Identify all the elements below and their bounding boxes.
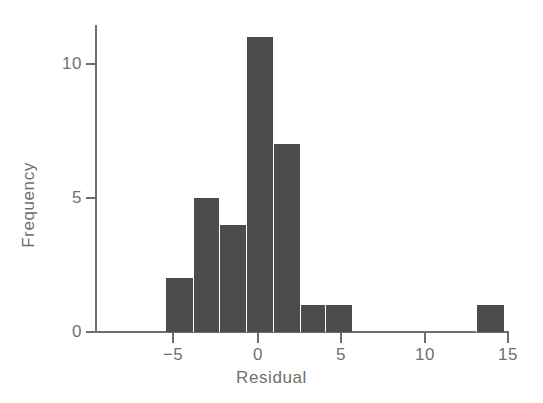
x-tick-0: [257, 333, 259, 343]
y-tick-0: [86, 331, 95, 333]
x-tick-label-15: 15: [498, 345, 518, 364]
y-tick-label-10: 10: [48, 55, 82, 72]
x-tick-label-5: 5: [336, 345, 346, 364]
x-tick-label-neg5: −5: [163, 345, 183, 364]
histogram-bar: [219, 225, 246, 332]
y-tick-5: [86, 197, 95, 199]
x-tick-5: [340, 333, 342, 343]
histogram-bar: [325, 305, 352, 332]
x-tick-label-0: 0: [253, 345, 263, 364]
y-tick-label-5: 5: [48, 189, 82, 206]
histogram-bar: [273, 144, 300, 332]
histogram-bar: [476, 305, 504, 332]
y-tick-label-0: 0: [48, 323, 82, 340]
x-axis-title: Residual: [0, 368, 543, 388]
y-tick-10: [86, 63, 95, 65]
histogram-bar: [166, 278, 193, 332]
histogram-bar: [300, 305, 325, 332]
x-tick-15: [507, 333, 509, 343]
histogram-bar: [246, 37, 273, 332]
x-tick-neg5: [172, 333, 174, 343]
y-axis-title-text: Frequency: [19, 162, 39, 248]
histogram-bar: [193, 198, 220, 332]
bars-container: [96, 25, 508, 332]
x-tick-10: [424, 333, 426, 343]
histogram-figure: 0 5 10 −5 0 5 10 15 Residual Frequency: [0, 0, 543, 403]
x-tick-label-10: 10: [415, 345, 435, 364]
y-axis-title: Frequency: [18, 135, 40, 275]
